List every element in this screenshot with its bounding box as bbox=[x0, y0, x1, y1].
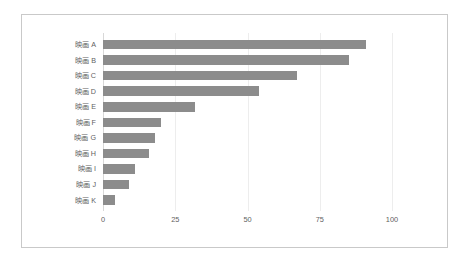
bar bbox=[103, 149, 149, 159]
bar-category-label: 映画 E bbox=[75, 99, 96, 115]
bar-row: 映画 C bbox=[22, 68, 447, 84]
bar-category-label: 映画 D bbox=[75, 84, 96, 100]
x-tick-label-50: 50 bbox=[243, 215, 251, 224]
bar-row: 映画 J bbox=[22, 177, 447, 193]
bar bbox=[103, 102, 195, 112]
chart-card: 映画 A映画 B映画 C映画 D映画 E映画 F映画 G映画 H映画 I映画 J… bbox=[21, 14, 448, 248]
bar bbox=[103, 164, 135, 174]
x-tick-label-75: 75 bbox=[316, 215, 324, 224]
x-tick-label-0: 0 bbox=[101, 215, 105, 224]
bar-category-label: 映画 J bbox=[76, 177, 96, 193]
bar-row: 映画 I bbox=[22, 161, 447, 177]
bar-chart-plot-area: 映画 A映画 B映画 C映画 D映画 E映画 F映画 G映画 H映画 I映画 J… bbox=[22, 15, 447, 247]
bar bbox=[103, 118, 161, 128]
bar bbox=[103, 133, 155, 143]
bar-row: 映画 G bbox=[22, 130, 447, 146]
bar bbox=[103, 55, 349, 65]
bar bbox=[103, 71, 297, 81]
bar bbox=[103, 180, 129, 190]
bar-category-label: 映画 H bbox=[75, 146, 96, 162]
bar-row: 映画 E bbox=[22, 99, 447, 115]
bar-row: 映画 D bbox=[22, 84, 447, 100]
bar-row: 映画 H bbox=[22, 146, 447, 162]
bar-category-label: 映画 I bbox=[78, 161, 96, 177]
bar-row: 映画 A bbox=[22, 37, 447, 53]
bar-category-label: 映画 C bbox=[75, 68, 96, 84]
bar-category-label: 映画 G bbox=[74, 130, 96, 146]
bar-category-label: 映画 A bbox=[75, 37, 96, 53]
bar-row: 映画 B bbox=[22, 53, 447, 69]
bar bbox=[103, 40, 366, 50]
bar-category-label: 映画 B bbox=[75, 53, 96, 69]
bar-category-label: 映画 K bbox=[75, 193, 96, 209]
bar bbox=[103, 195, 115, 205]
x-tick-label-100: 100 bbox=[386, 215, 398, 224]
x-tick-label-25: 25 bbox=[171, 215, 179, 224]
bar-row: 映画 K bbox=[22, 193, 447, 209]
bar-row: 映画 F bbox=[22, 115, 447, 131]
bar-category-label: 映画 F bbox=[76, 115, 96, 131]
bar bbox=[103, 86, 259, 96]
